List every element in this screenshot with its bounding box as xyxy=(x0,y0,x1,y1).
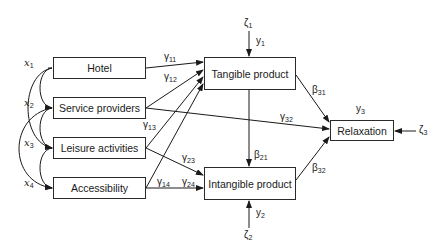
corr-x1-x2 xyxy=(40,68,52,108)
node-label: Tangible product xyxy=(211,68,288,80)
node-tangible-product: Tangible product xyxy=(204,57,296,90)
label-zeta2: ζ2 xyxy=(244,230,252,241)
label-x1: x1 xyxy=(24,58,34,69)
corr-x3-x4 xyxy=(40,148,52,188)
label-x4: x4 xyxy=(24,178,34,189)
node-leisure-activities: Leisure activities xyxy=(53,137,146,159)
label-zeta1: ζ1 xyxy=(244,18,252,29)
label-beta32: β32 xyxy=(312,163,326,174)
node-label: Relaxation xyxy=(337,125,387,137)
corr-x2-x3 xyxy=(40,108,52,148)
node-accessibility: Accessibility xyxy=(53,177,146,199)
label-y2: y2 xyxy=(256,208,265,219)
label-x3: x3 xyxy=(24,138,34,149)
node-relaxation: Relaxation xyxy=(330,120,394,141)
label-zeta3: ζ3 xyxy=(419,125,427,136)
label-y3: y3 xyxy=(356,104,365,115)
label-gamma14: γ14 xyxy=(157,177,170,188)
label-gamma32: γ32 xyxy=(280,112,293,123)
label-gamma24: γ24 xyxy=(182,177,195,188)
label-x2: x2 xyxy=(24,98,34,109)
label-gamma11: γ11 xyxy=(164,52,176,63)
node-label: Hotel xyxy=(87,62,112,74)
node-label: Intangible product xyxy=(208,178,291,190)
label-beta31: β31 xyxy=(312,85,326,96)
node-service-providers: Service providers xyxy=(53,97,146,119)
label-y1: y1 xyxy=(256,36,265,47)
node-intangible-product: Intangible product xyxy=(204,167,296,200)
label-gamma12: γ12 xyxy=(164,72,177,83)
label-gamma23: γ23 xyxy=(182,153,195,164)
node-label: Leisure activities xyxy=(61,142,139,154)
label-gamma13: γ13 xyxy=(143,120,156,131)
node-label: Accessibility xyxy=(71,182,128,194)
label-beta21: β21 xyxy=(254,150,268,161)
node-label: Service providers xyxy=(59,102,140,114)
node-hotel: Hotel xyxy=(53,57,146,79)
